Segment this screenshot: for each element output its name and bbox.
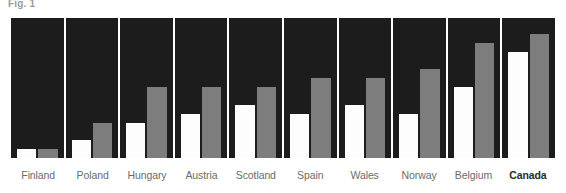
country-panel: 69	[339, 18, 394, 158]
bar-group: 58	[175, 18, 228, 158]
bar-value-label: 10	[425, 6, 436, 17]
bar-group: 1214	[502, 18, 555, 158]
bar-wrap: 5	[399, 18, 418, 158]
bar-wrap: 1	[38, 18, 57, 158]
country-panel: 510	[393, 18, 448, 158]
bar-value-label: 8	[209, 6, 215, 17]
bar: 6	[235, 105, 254, 158]
bar-value-label: 12	[512, 6, 523, 17]
bar-group: 24	[66, 18, 119, 158]
bar-value-label: 4	[133, 6, 139, 17]
bar-value-label: 6	[242, 6, 248, 17]
country-panel: 59	[284, 18, 339, 158]
bar: 4	[126, 123, 145, 158]
bar-wrap: 14	[530, 18, 549, 158]
bar-value-label: 9	[318, 6, 324, 17]
bar-group: 813	[448, 18, 501, 158]
figure-caption: Fig. 1	[8, 0, 35, 12]
category-axis: FinlandPolandHungaryAustriaScotlandSpain…	[11, 162, 555, 188]
bar-value-label: 1	[24, 6, 30, 17]
bar-group: 59	[284, 18, 337, 158]
bar-value-label: 1	[45, 6, 51, 17]
category-label: Belgium	[446, 162, 500, 188]
bar-value-label: 6	[351, 6, 357, 17]
country-panel: 1214	[502, 18, 555, 158]
bar-wrap: 8	[147, 18, 166, 158]
category-label: Wales	[337, 162, 391, 188]
bar-wrap: 10	[420, 18, 439, 158]
bar: 8	[147, 87, 166, 158]
bar: 9	[311, 78, 330, 158]
bar: 5	[181, 114, 200, 158]
category-label: Scotland	[229, 162, 283, 188]
chart-plot-area: 112448586859695108131214	[11, 18, 555, 158]
country-panel: 58	[175, 18, 230, 158]
bar: 12	[508, 52, 527, 158]
bar-wrap: 12	[508, 18, 527, 158]
category-label: Canada	[501, 162, 555, 188]
bar-wrap: 5	[181, 18, 200, 158]
bar: 1	[17, 149, 36, 158]
bar-value-label: 4	[100, 6, 106, 17]
country-panel: 813	[448, 18, 503, 158]
bar: 5	[399, 114, 418, 158]
bar-group: 68	[229, 18, 282, 158]
bar-value-label: 14	[534, 6, 545, 17]
bar-value-label: 5	[188, 6, 194, 17]
bar-group: 48	[120, 18, 173, 158]
bar-wrap: 9	[366, 18, 385, 158]
bar: 8	[202, 87, 221, 158]
bar-value-label: 13	[479, 6, 490, 17]
country-panel: 11	[11, 18, 66, 158]
bar: 1	[38, 149, 57, 158]
bar-wrap: 8	[202, 18, 221, 158]
bar-wrap: 4	[126, 18, 145, 158]
bar-wrap: 6	[345, 18, 364, 158]
bar-wrap: 8	[257, 18, 276, 158]
bar-wrap: 1	[17, 18, 36, 158]
bar-wrap: 9	[311, 18, 330, 158]
bar: 8	[454, 87, 473, 158]
bar-value-label: 8	[264, 6, 270, 17]
bar: 8	[257, 87, 276, 158]
category-label: Poland	[65, 162, 119, 188]
bar: 4	[93, 123, 112, 158]
bar-value-label: 2	[78, 6, 84, 17]
bar-value-label: 5	[406, 6, 412, 17]
bar: 5	[290, 114, 309, 158]
bar-wrap: 4	[93, 18, 112, 158]
country-panel: 48	[120, 18, 175, 158]
category-label: Austria	[174, 162, 228, 188]
category-label: Hungary	[120, 162, 174, 188]
bar-group: 69	[339, 18, 392, 158]
bar-value-label: 8	[461, 6, 467, 17]
bar-value-label: 5	[297, 6, 303, 17]
bar: 14	[530, 34, 549, 158]
category-label: Spain	[283, 162, 337, 188]
bar-wrap: 13	[475, 18, 494, 158]
bar-wrap: 2	[72, 18, 91, 158]
bar: 9	[366, 78, 385, 158]
bar-wrap: 5	[290, 18, 309, 158]
bar: 6	[345, 105, 364, 158]
bar-wrap: 8	[454, 18, 473, 158]
bar-group: 11	[11, 18, 64, 158]
country-panel: 24	[66, 18, 121, 158]
bar: 2	[72, 140, 91, 158]
bar-group: 510	[393, 18, 446, 158]
bar: 10	[420, 69, 439, 158]
category-label: Finland	[11, 162, 65, 188]
category-label: Norway	[392, 162, 446, 188]
bar: 13	[475, 43, 494, 158]
bar-value-label: 8	[154, 6, 160, 17]
bar-value-label: 9	[373, 6, 379, 17]
bar-wrap: 6	[235, 18, 254, 158]
country-panel: 68	[229, 18, 284, 158]
